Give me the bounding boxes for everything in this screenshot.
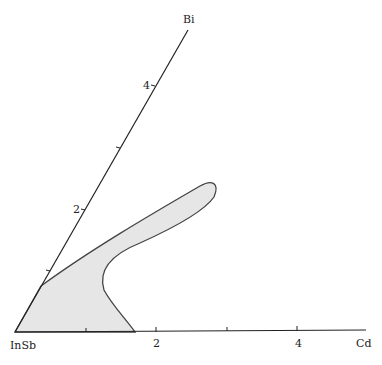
origin-label: InSb [10, 339, 36, 352]
shaded-region [15, 183, 216, 332]
bi-tick-3 [116, 147, 120, 148]
cd-tick-label-2: 2 [153, 337, 160, 350]
bi-tick-label-4: 4 [143, 79, 150, 92]
bi-tick-label-2: 2 [73, 203, 80, 216]
phase-diagram: InSb Cd Bi 2 4 2 4 [0, 0, 382, 365]
cd-tick-label-4: 4 [295, 337, 302, 350]
cd-label: Cd [356, 337, 371, 350]
bi-tick-2 [81, 209, 85, 210]
bi-label: Bi [183, 13, 195, 26]
bi-tick-1 [46, 270, 50, 271]
bi-tick-4 [151, 85, 155, 86]
